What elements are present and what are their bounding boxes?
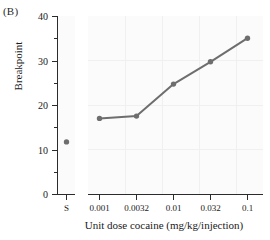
chart-canvas: 0 10 20 30 40 S 0.001 0.0032 0.01 0.032	[0, 0, 270, 240]
figure-panel: (B) Breakpoint Unit dose cocaine (mg/kg/…	[0, 0, 270, 240]
data-point	[171, 81, 176, 86]
x-tick-label: 0.1	[242, 203, 253, 213]
saline-panel-background	[58, 16, 75, 194]
x-tick-label: 0.032	[200, 203, 220, 213]
data-point-saline	[64, 139, 69, 144]
y-tick-label: 10	[38, 145, 48, 156]
y-axis-major-ticks	[52, 17, 58, 195]
data-point	[245, 36, 250, 41]
y-axis-tick-labels: 0 10 20 30 40	[38, 11, 48, 200]
data-point	[208, 59, 213, 64]
y-tick-label: 20	[38, 100, 48, 111]
x-tick-label: 0.01	[166, 203, 182, 213]
y-tick-label: 30	[38, 56, 48, 67]
x-tick-label: 0.0032	[124, 203, 149, 213]
x-axis-ticks	[100, 195, 248, 201]
y-tick-label: 0	[43, 189, 48, 200]
y-tick-label: 40	[38, 11, 48, 22]
x-axis-tick-labels: 0.001 0.0032 0.01 0.032 0.1	[89, 203, 253, 213]
x-tick-label: 0.001	[89, 203, 109, 213]
saline-tick-label: S	[64, 203, 69, 213]
data-point	[134, 113, 139, 118]
data-point	[97, 116, 102, 121]
